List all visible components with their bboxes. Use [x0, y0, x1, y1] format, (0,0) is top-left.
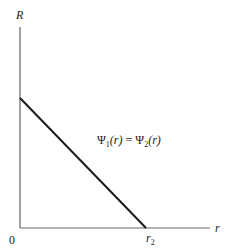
x-intercept-label: r2	[146, 232, 155, 247]
line-equation-label: Ψ1(r) = Ψ2(r)	[97, 134, 161, 149]
indifference-line	[20, 98, 146, 228]
origin-label: 0	[9, 234, 15, 246]
y-axis-label: R	[16, 9, 23, 21]
diagram-canvas	[0, 0, 233, 252]
x-axis-label: r	[215, 222, 220, 234]
